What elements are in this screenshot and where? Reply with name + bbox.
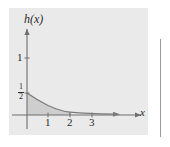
- y-axis-arrowhead: [24, 29, 29, 35]
- y-tick-label-1: 1: [17, 52, 23, 63]
- y-tick-label-one-half: 1 2: [18, 83, 24, 101]
- y-axis-label: h(x): [24, 13, 43, 25]
- shaded-area-under-curve: [27, 93, 70, 115]
- x-tick-label-2: 2: [67, 117, 73, 128]
- fraction-numerator: 1: [18, 83, 24, 91]
- figure-container: h(x) x 1 1 2 1 2 3: [0, 0, 170, 147]
- x-axis-label: x: [140, 107, 145, 118]
- fraction-denominator: 2: [18, 93, 24, 101]
- curve-arrowhead: [113, 112, 120, 117]
- x-tick-label-3: 3: [89, 117, 95, 128]
- x-tick-label-1: 1: [45, 117, 51, 128]
